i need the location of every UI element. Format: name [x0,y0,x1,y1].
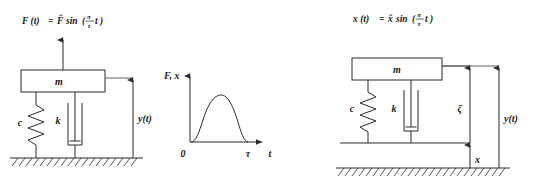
chart-y-axis-label: F, x [163,70,179,81]
spring-element-right [360,80,376,143]
right-eq-lhs: x (t) [352,14,369,25]
mass-label-right: m [393,64,401,75]
mass-label-left: m [55,76,63,87]
spring-label-right: c [350,103,355,114]
left-system-group [10,40,143,166]
left-eq-numerator: π [87,13,91,21]
mass-block-left [21,70,105,92]
left-eq-amplitude: F̂ [56,14,64,26]
damper-element-left [68,92,82,158]
relative-displacement-dimension [442,66,470,143]
chart-tick-tau: τ [246,148,251,159]
ground-hatched-right [336,168,510,176]
left-eq-equals: = [48,16,53,26]
displacement-dimension-left [105,78,133,158]
chart-origin-label: 0 [181,148,186,159]
figure-root: F (t) = F̂ sin ( π τ t ) m c k y(t) F, x… [0,0,534,179]
ground-hatched-left [10,158,143,166]
technical-diagram-canvas: F (t) = F̂ sin ( π τ t ) m c k y(t) F, x… [0,0,534,179]
right-equation: x (t) = x̂ sin ( π τ t ) [352,11,433,28]
right-eq-amplitude: x̂ [387,14,393,24]
damper-label-right: k [392,103,397,114]
right-eq-sin: sin [395,14,408,24]
spring-element-left [28,92,44,158]
left-eq-lhs: F (t) [21,16,40,27]
right-system-group [336,58,510,176]
left-eq-denominator: τ [88,22,92,30]
chart-curve-half-sine [191,95,248,142]
left-eq-paren-close: ) [99,16,103,27]
spring-label-left: c [18,117,23,128]
left-eq-sin: sin [65,16,78,26]
left-equation: F (t) = F̂ sin ( π τ t ) [21,13,103,30]
left-eq-variable: t [95,16,98,26]
right-eq-denominator: τ [418,20,422,28]
displacement-label-left: y(t) [137,113,152,125]
right-eq-numerator: π [417,11,421,19]
chart-x-axis-label: t [269,148,273,159]
base-displacement-label: x [474,154,480,165]
absolute-displacement-label: y(t) [503,113,518,125]
damper-element-right [404,80,418,143]
right-eq-paren-open: ( [412,14,416,25]
pulse-chart-group [190,76,262,142]
right-eq-equals: = [379,14,384,24]
damper-label-left: k [56,115,61,126]
relative-displacement-label: ζ [458,103,463,115]
left-eq-paren-open: ( [82,16,86,27]
right-eq-paren-close: ) [429,14,433,25]
right-eq-variable: t [425,14,428,24]
